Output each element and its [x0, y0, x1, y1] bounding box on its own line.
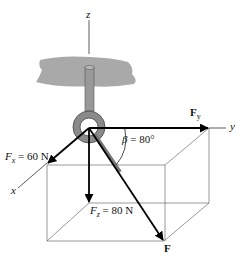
cable: [95, 135, 120, 172]
fz-label: Fz = 80 N: [90, 204, 133, 219]
x-axis: [18, 163, 47, 188]
fx-label: Fx = 60 N: [5, 150, 49, 165]
force-diagram: z y x Fy Fx = 60 N Fz = 80 N F β = 80°: [0, 0, 242, 257]
force-fx-arrow: [48, 128, 89, 163]
f-label: F: [164, 242, 171, 254]
fy-label: Fy: [190, 106, 201, 121]
y-axis-label: y: [230, 120, 235, 132]
bolt-shank: [85, 67, 94, 111]
x-axis-label: x: [11, 184, 16, 196]
z-axis-label: z: [86, 8, 90, 20]
beta-label: β = 80°: [122, 133, 155, 145]
